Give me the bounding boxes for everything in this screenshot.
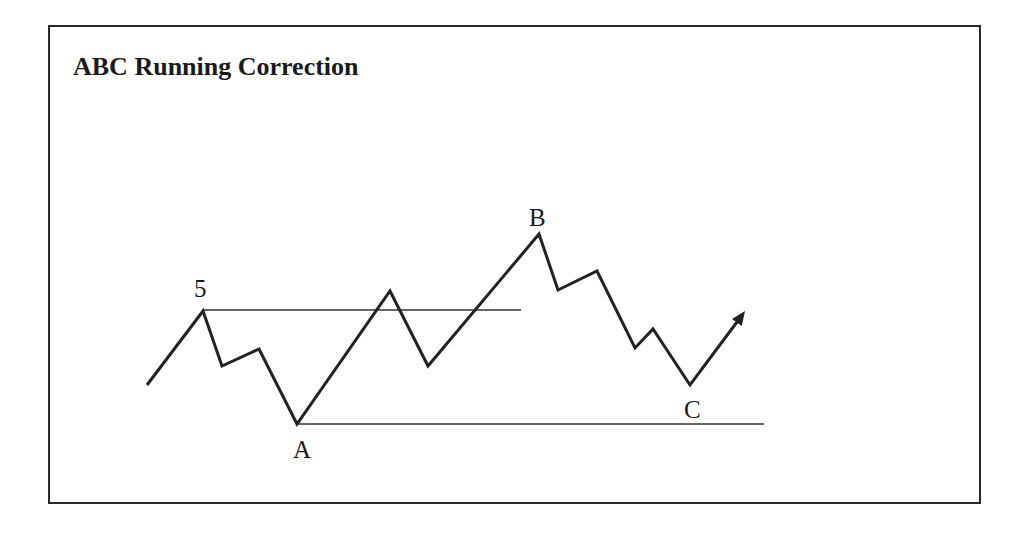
wave-label-a: A xyxy=(293,436,311,463)
wave-label-c: C xyxy=(684,396,701,423)
elliott-wave-diagram: 5ABC xyxy=(0,0,1025,533)
wave-label-five: 5 xyxy=(194,275,207,302)
wave-path xyxy=(147,234,740,424)
wave-label-b: B xyxy=(529,204,546,231)
